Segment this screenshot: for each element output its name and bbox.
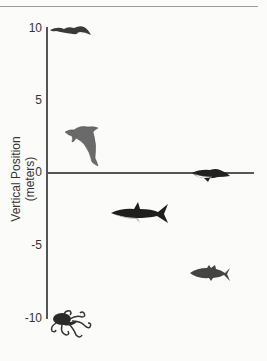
- dolphin-icon: [64, 124, 102, 168]
- octopus-icon: [48, 309, 94, 341]
- bird-icon: [50, 24, 92, 38]
- tick-neg10: -10: [20, 311, 42, 325]
- tick-5: 5: [20, 93, 42, 107]
- tick-0: 0: [20, 165, 42, 179]
- penguin-icon: [190, 167, 232, 183]
- tuna-icon: [189, 264, 231, 284]
- shark-icon: [110, 201, 172, 227]
- tick-neg5: -5: [20, 238, 42, 252]
- y-axis-label: Vertical Position (meters): [9, 114, 37, 244]
- tick-10: 10: [20, 21, 42, 35]
- top-divider: [0, 6, 258, 7]
